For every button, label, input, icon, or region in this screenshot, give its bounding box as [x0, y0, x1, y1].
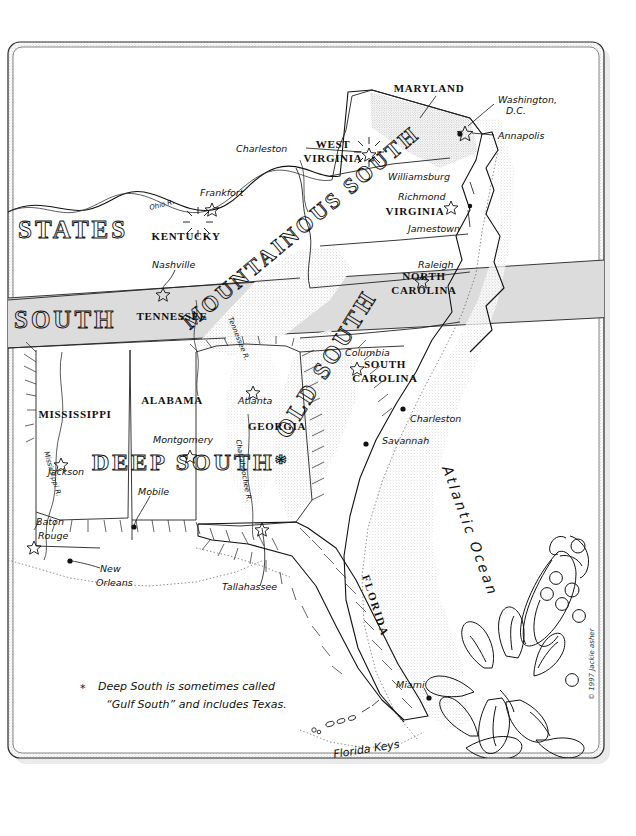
state-label-virginia: VIRGINIA: [386, 205, 445, 217]
city-label-jamestown: Jamestown: [406, 223, 460, 234]
city-label-baton-rouge-1: Baton: [36, 516, 64, 527]
state-label-kentucky: KENTUCKY: [151, 230, 220, 242]
city-label-washington-dc-2: D.C.: [506, 105, 526, 116]
city-label-raleigh: Raleigh: [418, 259, 454, 270]
footnote-line-2: “Gulf South” and includes Texas.: [106, 698, 287, 711]
city-label-new-orleans-2: Orleans: [96, 577, 133, 588]
city-label-atlanta: Atlanta: [237, 395, 272, 406]
state-label-maryland: MARYLAND: [394, 82, 465, 94]
city-label-charleston-wv: Charleston: [236, 143, 287, 154]
city-label-new-orleans-1: New: [100, 563, 121, 574]
state-label-south-carolina-1: SOUTH: [364, 358, 406, 370]
copyright-notice: © 1997 Jackie asher: [588, 627, 596, 700]
state-label-south-carolina-2: CAROLINA: [352, 372, 418, 384]
region-label-south-band: SOUTH: [14, 306, 117, 333]
state-label-georgia: GEORGIA: [248, 420, 306, 432]
footnote-asterisk: *: [80, 682, 86, 695]
city-label-nashville: Nashville: [152, 259, 195, 270]
city-label-mobile: Mobile: [138, 486, 169, 497]
city-label-frankfort: Frankfort: [200, 187, 245, 198]
state-label-north-carolina-2: CAROLINA: [391, 284, 457, 296]
footnote-line-1: Deep South is sometimes called: [98, 680, 276, 693]
state-label-west-virginia-2: VIRGINIA: [304, 152, 363, 164]
city-label-savannah: Savannah: [382, 435, 429, 446]
south-region-map: STATES SOUTH MOUNTAINOUS SOUTH OLD SOUTH…: [0, 0, 636, 836]
city-label-charleston-sc: Charleston: [410, 413, 461, 424]
state-label-west-virginia-1: WEST: [316, 138, 351, 150]
state-label-alabama: ALABAMA: [141, 394, 203, 406]
region-label-states: STATES: [18, 216, 128, 243]
city-label-baton-rouge-2: Rouge: [38, 530, 68, 541]
city-label-tallahassee: Tallahassee: [222, 581, 277, 592]
city-label-richmond: Richmond: [398, 191, 447, 202]
city-label-washington-dc-1: Washington,: [498, 94, 557, 105]
city-label-williamsburg: Williamsburg: [388, 171, 450, 182]
city-label-montgomery: Montgomery: [153, 434, 214, 445]
city-label-miami: Miami: [396, 679, 425, 690]
city-label-columbia: Columbia: [345, 347, 390, 358]
state-label-mississippi: MISSISSIPPI: [38, 408, 111, 420]
state-label-north-carolina-1: NORTH: [402, 270, 445, 282]
map-canvas: STATES SOUTH MOUNTAINOUS SOUTH OLD SOUTH…: [0, 0, 636, 836]
state-label-tennessee: TENNESSEE: [136, 310, 207, 322]
city-label-annapolis: Annapolis: [497, 130, 544, 141]
